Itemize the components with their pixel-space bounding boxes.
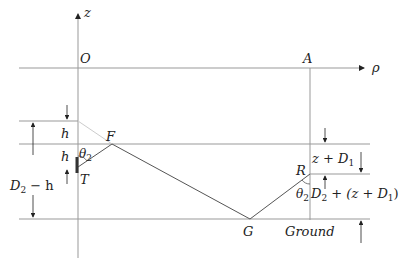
propagation-geometry-diagram: z ρ O A F T R G Ground h h θ2 θ2 D2 − h … — [0, 0, 408, 267]
angle-arc-R — [302, 180, 310, 184]
D2-minus-h-label: D2 − h — [9, 178, 54, 195]
z-axis-label: z — [83, 5, 91, 20]
D2-plus-zD1-label: D2 + (z + D1) — [310, 186, 399, 203]
ray-path — [78, 144, 310, 219]
theta-T-label: θ2 — [79, 147, 92, 163]
point-G-label: G — [243, 224, 253, 239]
z-plus-D1-label: z + D1 — [311, 151, 354, 168]
point-R-label: R — [295, 163, 306, 178]
point-F-label: F — [105, 129, 116, 144]
h-top-label: h — [61, 126, 69, 141]
point-T-label: T — [80, 172, 90, 187]
ground-label: Ground — [285, 224, 335, 239]
origin-label: O — [80, 51, 91, 66]
h-bottom-label: h — [61, 149, 69, 164]
point-A-label: A — [302, 51, 312, 66]
theta-R-label: θ2 — [296, 187, 309, 203]
rho-axis-label: ρ — [371, 60, 380, 75]
